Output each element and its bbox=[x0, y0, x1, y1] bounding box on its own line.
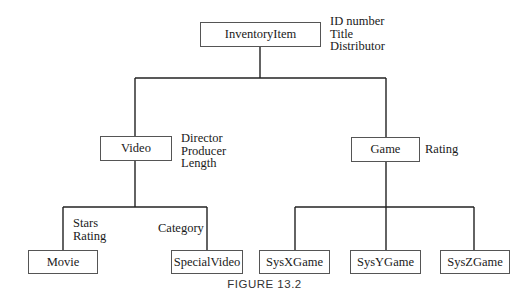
attribute: Stars bbox=[73, 217, 106, 230]
attributes-special-video: Category bbox=[158, 222, 204, 235]
node-sysx-game: SysXGame bbox=[259, 250, 330, 274]
node-label: SysZGame bbox=[447, 255, 503, 270]
node-inventory-item: InventoryItem bbox=[200, 22, 321, 47]
node-video: Video bbox=[100, 136, 172, 161]
attribute: Rating bbox=[73, 230, 106, 243]
attributes-inventory-item: ID number Title Distributor bbox=[330, 15, 385, 53]
attributes-game: Rating bbox=[425, 143, 458, 156]
node-label: SysXGame bbox=[266, 255, 323, 270]
node-label: InventoryItem bbox=[225, 27, 297, 42]
figure-caption: FIGURE 13.2 bbox=[0, 278, 529, 290]
attribute: Rating bbox=[425, 143, 458, 156]
node-special-video: SpecialVideo bbox=[171, 250, 243, 274]
attribute: Length bbox=[181, 157, 226, 170]
node-label: Video bbox=[121, 141, 151, 156]
attribute: Category bbox=[158, 222, 204, 235]
node-sysy-game: SysYGame bbox=[350, 250, 421, 274]
attribute: Director bbox=[181, 132, 226, 145]
node-label: SpecialVideo bbox=[174, 255, 241, 270]
node-movie: Movie bbox=[28, 250, 98, 274]
attribute: ID number bbox=[330, 15, 385, 28]
node-label: SysYGame bbox=[357, 255, 414, 270]
node-label: Game bbox=[371, 142, 401, 157]
attribute: Distributor bbox=[330, 40, 385, 53]
attributes-video: Director Producer Length bbox=[181, 132, 226, 170]
node-game: Game bbox=[351, 137, 420, 162]
attributes-movie: Stars Rating bbox=[73, 217, 106, 242]
node-sysz-game: SysZGame bbox=[440, 250, 510, 274]
node-label: Movie bbox=[47, 255, 80, 270]
